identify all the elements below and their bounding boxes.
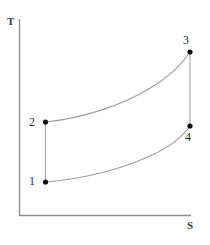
y-axis-label: T <box>7 16 14 27</box>
x-axis-label: S <box>187 220 193 231</box>
process-curve-2-3 <box>46 52 191 122</box>
state-point-3-label: 3 <box>183 34 189 46</box>
state-point-1-label: 1 <box>29 175 35 187</box>
state-point-1-marker <box>43 179 48 184</box>
ts-diagram-figure: T S 1 2 3 4 <box>0 0 210 245</box>
state-point-2-marker <box>43 119 48 124</box>
state-point-4-label: 4 <box>185 131 191 143</box>
state-point-4-marker <box>187 123 192 128</box>
process-curve-4-1 <box>46 126 191 182</box>
state-point-2-label: 2 <box>29 116 35 128</box>
state-point-3-marker <box>187 49 192 54</box>
